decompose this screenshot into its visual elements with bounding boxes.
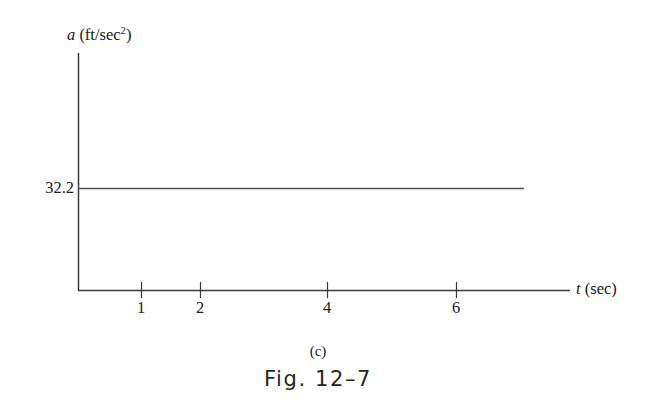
x-axis-tick-label-2: 2 [180,300,220,317]
figure-page: a (ft/sec2) 32.2 t (sec) 1 2 4 6 (c) Fig… [0,0,654,408]
y-axis-label-variable: a [67,25,75,44]
figure-caption: Fig. 12–7 [0,369,645,390]
y-axis-label-unit-open: (ft/sec [75,25,120,44]
y-axis-label: a (ft/sec2) [67,27,131,44]
x-axis-tick-label-1: 1 [121,300,161,317]
x-axis-label-unit: (sec) [581,279,617,298]
y-axis-label-unit-close: ) [126,25,132,44]
x-axis-tick-label-6: 6 [436,300,476,317]
y-axis-tick-label-32-2: 32.2 [45,180,74,197]
x-axis-label: t (sec) [576,281,617,298]
x-axis-tick-label-4: 4 [307,300,347,317]
panel-letter: (c) [0,344,645,359]
